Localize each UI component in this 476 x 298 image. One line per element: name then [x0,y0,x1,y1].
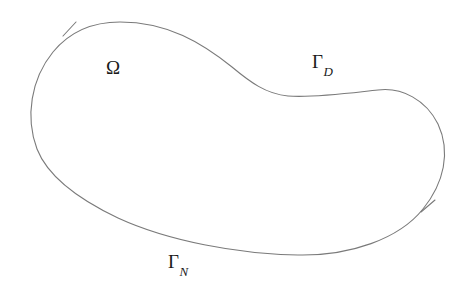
gamma-d-subscript: D [323,64,332,79]
gamma-n-subscript: N [179,264,188,279]
gamma-n-label: ΓN [168,252,188,275]
gamma-n-base: Γ [168,251,179,272]
domain-boundary-svg [0,0,476,298]
domain-figure: Ω ΓD ΓN [0,0,476,298]
omega-domain-label: Ω [106,58,120,77]
gamma-d-base: Γ [312,51,323,72]
figure-background [0,0,476,298]
gamma-d-label: ΓD [312,52,332,75]
